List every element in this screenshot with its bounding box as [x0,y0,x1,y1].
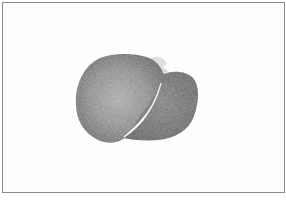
tissue-specimen-image [0,0,286,203]
